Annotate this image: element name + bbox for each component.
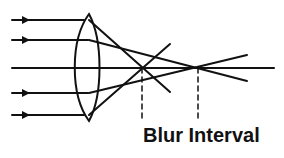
arrow-icon bbox=[22, 16, 30, 24]
blur-interval-label: Blur Interval bbox=[143, 124, 260, 147]
arrow-icon bbox=[22, 36, 30, 44]
ray-1-refracted bbox=[89, 20, 170, 92]
arrow-icon bbox=[22, 111, 30, 119]
ray-5-refracted bbox=[89, 44, 170, 115]
arrow-icon bbox=[22, 89, 30, 97]
